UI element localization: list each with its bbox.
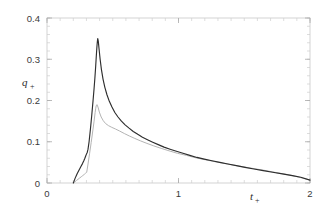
figure-container: 012 00.10.20.30.4 q + t +: [0, 0, 324, 211]
chart-canvas: 012 00.10.20.30.4 q + t +: [0, 0, 324, 211]
y-tick-label: 0: [35, 178, 40, 189]
y-tick-label: 0.3: [27, 54, 40, 65]
x-tick-label: 1: [176, 188, 181, 199]
y-axis-title-base: q: [22, 76, 28, 88]
x-axis-title-subscript: +: [255, 196, 260, 205]
y-axis-title-subscript: +: [30, 82, 35, 91]
x-tick-label: 0: [44, 188, 49, 199]
x-tick-label: 2: [307, 188, 312, 199]
y-tick-label: 0.2: [27, 95, 40, 106]
figure-background: [0, 0, 324, 211]
y-tick-label: 0.1: [27, 136, 40, 147]
y-tick-label: 0.4: [27, 13, 40, 24]
